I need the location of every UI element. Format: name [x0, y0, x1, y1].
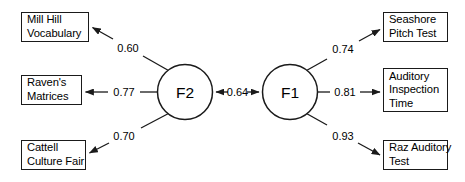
indicator-line: Culture Fair [27, 155, 82, 169]
path-segment-arrow [90, 143, 110, 153]
indicator-line: Vocabulary [27, 27, 85, 41]
path-segment-arrow [358, 143, 380, 155]
coefficient-f2-to-mill-hill: 0.60 [117, 42, 138, 54]
path-segment-outer [307, 114, 328, 126]
coefficient-f1-to-seashore: 0.74 [332, 43, 353, 55]
indicator-line: Cattell [27, 141, 82, 155]
path-segment-outer [143, 56, 169, 71]
path-f1-to-raz: 0.93 [307, 114, 381, 156]
factor-label-f1: F1 [281, 84, 299, 101]
coefficient-f2-f1-correlation: 0.64 [227, 86, 248, 98]
path-f1-to-seashore: 0.74 [307, 30, 381, 71]
indicator-box-raz-auditory-test: Raz Auditory Test [383, 140, 448, 170]
indicator-line: Seashore [389, 13, 444, 27]
indicator-line: Inspection [389, 83, 444, 97]
indicator-box-mill-hill-vocabulary: Mill Hill Vocabulary [21, 12, 89, 42]
path-f2-to-ravens: 0.77 [86, 86, 158, 98]
indicator-line: Pitch Test [389, 27, 444, 41]
indicator-box-seashore-pitch-test: Seashore Pitch Test [383, 12, 448, 42]
path-diagram: 0.60 0.77 0.70 0.64 0.74 [0, 0, 465, 182]
path-f2-to-cattell: 0.70 [90, 114, 169, 154]
factor-label-f2: F2 [176, 84, 194, 101]
factor-f2: F2 [158, 65, 213, 120]
indicator-box-ravens-matrices: Raven's Matrices [21, 75, 82, 105]
path-segment-outer [141, 114, 169, 129]
path-f2-f1-correlation: 0.64 [216, 86, 259, 98]
indicator-line: Auditory [389, 70, 444, 84]
path-segment-arrow [93, 28, 114, 40]
coefficient-f2-to-cattell: 0.70 [113, 130, 134, 142]
coefficient-f2-to-ravens: 0.77 [113, 86, 134, 98]
coefficient-f1-to-raz: 0.93 [332, 130, 353, 142]
indicator-line: Raz Auditory [389, 141, 444, 155]
path-segment-outer [307, 59, 328, 71]
indicator-line: Test [389, 155, 444, 169]
indicator-box-auditory-inspection-time: Auditory Inspection Time [383, 68, 448, 112]
indicator-line: Matrices [27, 90, 78, 104]
path-segment-arrow [359, 30, 380, 42]
indicator-line: Raven's [27, 76, 78, 90]
indicator-box-cattell-culture-fair: Cattell Culture Fair [21, 140, 86, 170]
path-f1-to-auditory-inspection: 0.81 [318, 86, 381, 98]
path-f2-to-mill-hill: 0.60 [93, 28, 169, 71]
indicator-line: Time [389, 97, 444, 111]
factor-f1: F1 [263, 65, 318, 120]
coefficient-f1-to-auditory-inspection: 0.81 [334, 86, 355, 98]
indicator-line: Mill Hill [27, 13, 85, 27]
